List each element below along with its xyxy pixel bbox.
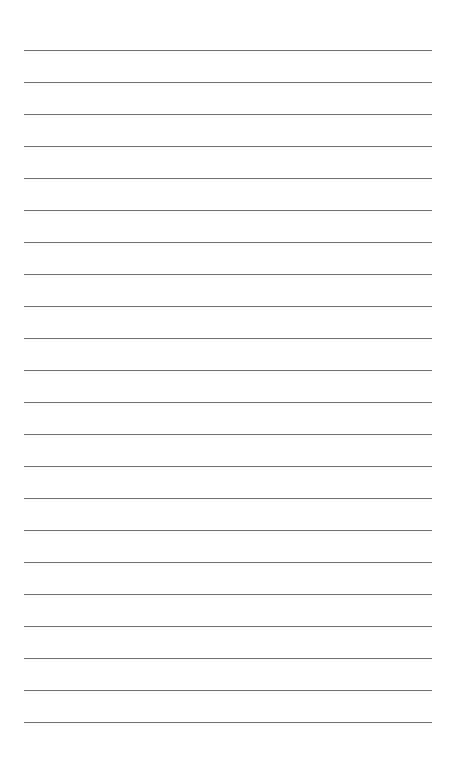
ruled-line — [24, 50, 432, 51]
ruled-line — [24, 370, 432, 371]
ruled-line — [24, 210, 432, 211]
ruled-line — [24, 114, 432, 115]
ruled-line — [24, 498, 432, 499]
ruled-line — [24, 402, 432, 403]
ruled-line — [24, 466, 432, 467]
ruled-line — [24, 146, 432, 147]
ruled-line — [24, 562, 432, 563]
ruled-line — [24, 658, 432, 659]
ruled-line — [24, 242, 432, 243]
ruled-line — [24, 306, 432, 307]
ruled-line — [24, 274, 432, 275]
ruled-line — [24, 626, 432, 627]
ruled-line — [24, 434, 432, 435]
ruled-line — [24, 594, 432, 595]
ruled-line — [24, 722, 432, 723]
ruled-line — [24, 82, 432, 83]
ruled-line — [24, 530, 432, 531]
ruled-line — [24, 178, 432, 179]
ruled-line — [24, 338, 432, 339]
ruled-line — [24, 690, 432, 691]
lined-paper-page — [0, 0, 467, 768]
